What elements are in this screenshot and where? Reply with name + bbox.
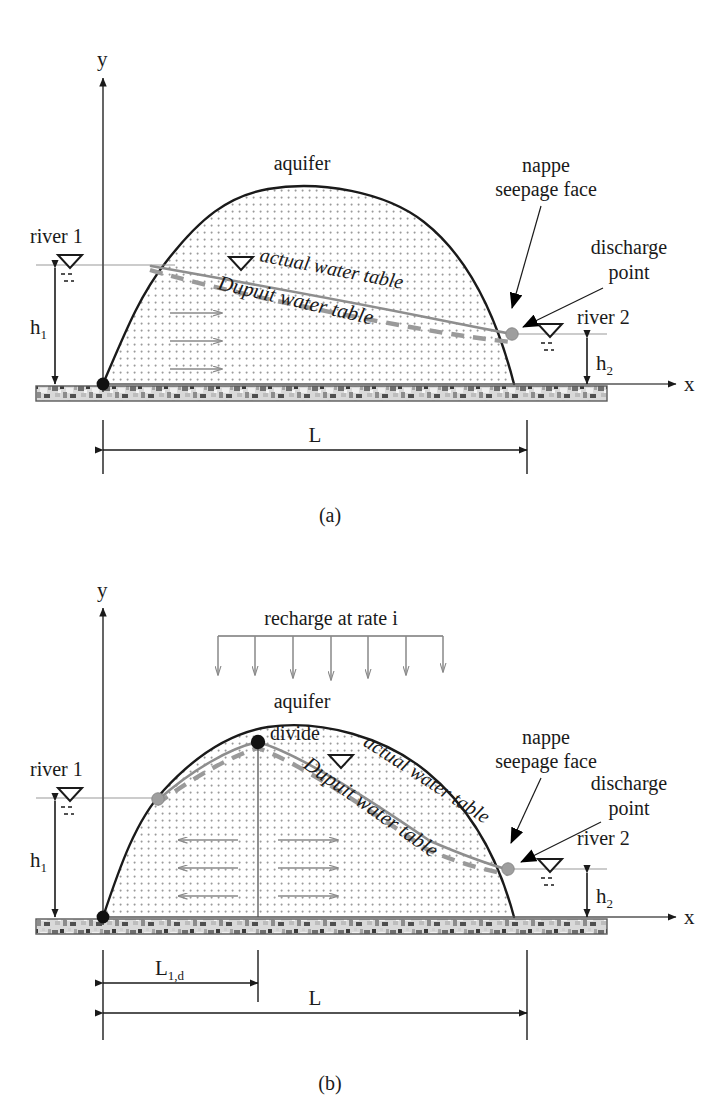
figure-root: y x aquifer river 1 river 2 actual water… bbox=[0, 0, 721, 1105]
nappe-leader-a bbox=[512, 206, 541, 308]
L1d-dimension-b: L1,d bbox=[103, 950, 258, 1040]
h1-label-b: h bbox=[30, 848, 41, 872]
bedrock-b bbox=[36, 919, 607, 934]
nappe-label-b: nappe bbox=[522, 726, 570, 749]
L1d-sub-b: 1,d bbox=[168, 968, 185, 983]
origin-point-dot-a bbox=[97, 378, 110, 391]
bedrock-a bbox=[36, 386, 607, 401]
recharge-group-b: recharge at rate i bbox=[218, 607, 443, 680]
h1-dimension-b: h1 bbox=[30, 801, 55, 917]
river1-level-triangle-b bbox=[58, 788, 82, 814]
recharge-arrows-b bbox=[218, 636, 443, 680]
river2-label-a: river 2 bbox=[577, 306, 630, 328]
h2-label-b: h bbox=[596, 884, 607, 908]
river1-label-b: river 1 bbox=[30, 758, 83, 780]
L-label-b: L bbox=[309, 986, 322, 1010]
discharge-point-dot-a bbox=[506, 328, 518, 340]
seepage-face-label-a: seepage face bbox=[495, 178, 597, 201]
svg-text:h1: h1 bbox=[30, 315, 47, 342]
origin-point-dot-b bbox=[97, 911, 110, 924]
seepage-face-label-b: seepage face bbox=[495, 750, 597, 773]
discharge-label-a: discharge bbox=[591, 236, 667, 259]
y-axis-label-b: y bbox=[97, 578, 108, 602]
h1-sub-b: 1 bbox=[41, 860, 48, 875]
panel-b: y x recharge at rate i divide bbox=[30, 578, 695, 1095]
svg-text:h2: h2 bbox=[596, 351, 613, 378]
recharge-label-b: recharge at rate i bbox=[264, 607, 398, 630]
h2-sub-b: 2 bbox=[607, 896, 614, 911]
x-axis-label-a: x bbox=[684, 372, 695, 396]
aquifer-label-b: aquifer bbox=[274, 690, 331, 713]
discharge-point-dot-b bbox=[502, 863, 514, 875]
nappe-leader-b bbox=[511, 778, 541, 843]
h1-label-a: h bbox=[30, 315, 41, 339]
h1-sub-a: 1 bbox=[41, 327, 48, 342]
discharge-label-b: discharge bbox=[591, 772, 667, 795]
panel-a: y x aquifer river 1 river 2 actual water… bbox=[30, 47, 695, 527]
left-seepage-dot-b bbox=[152, 793, 164, 805]
y-axis-label-a: y bbox=[97, 47, 108, 71]
h1-dimension-a: h1 bbox=[30, 268, 55, 384]
svg-text:L1,d: L1,d bbox=[155, 956, 185, 983]
L-label-a: L bbox=[309, 423, 322, 447]
river2-level-triangle-b bbox=[538, 859, 562, 885]
h2-dimension-b: h2 bbox=[587, 873, 613, 917]
nappe-label-a: nappe bbox=[522, 154, 570, 177]
L1d-label-b: L bbox=[155, 956, 168, 980]
panel-b-caption: (b) bbox=[318, 1072, 341, 1095]
aquifer-label-a: aquifer bbox=[274, 152, 331, 175]
aquifer-body-a bbox=[103, 186, 514, 384]
L-dimension-a: L bbox=[103, 420, 527, 474]
divide-label-b: divide bbox=[270, 722, 320, 744]
aquifer-body-b bbox=[103, 725, 514, 917]
river1-label-a: river 1 bbox=[30, 225, 83, 247]
river1-level-triangle-a bbox=[58, 255, 82, 281]
x-axis-label-b: x bbox=[684, 905, 695, 929]
h2-label-a: h bbox=[596, 351, 607, 375]
discharge-point-label-b: point bbox=[608, 797, 650, 820]
river2-level-triangle-a bbox=[538, 324, 562, 350]
discharge-point-label-a: point bbox=[608, 261, 650, 284]
panel-a-caption: (a) bbox=[319, 504, 341, 527]
h2-dimension-a: h2 bbox=[587, 338, 613, 384]
h2-sub-a: 2 bbox=[607, 363, 614, 378]
svg-text:h2: h2 bbox=[596, 884, 613, 911]
svg-text:h1: h1 bbox=[30, 848, 47, 875]
